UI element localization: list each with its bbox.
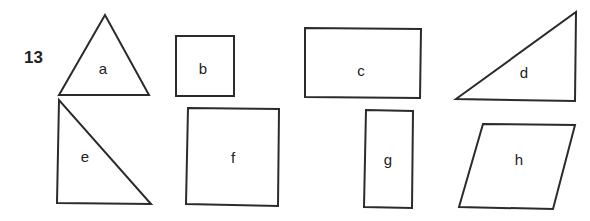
shape-e: e <box>57 100 151 204</box>
shape-label-h: h <box>515 151 523 168</box>
shape-label-e: e <box>81 148 89 165</box>
triangle-d-outline <box>456 12 576 101</box>
shape-label-d: d <box>520 64 528 81</box>
question-number: 13 <box>24 48 43 67</box>
triangle-a-outline <box>59 15 149 95</box>
shape-label-c: c <box>357 62 365 79</box>
shape-d: d <box>456 12 576 101</box>
shapes-diagram: 13 a b c d e f g h <box>0 0 590 221</box>
shape-label-a: a <box>99 60 108 77</box>
shape-c: c <box>305 28 421 98</box>
shape-a: a <box>59 15 149 95</box>
shape-g: g <box>364 110 413 208</box>
shape-b: b <box>176 36 234 96</box>
shape-label-g: g <box>384 151 392 168</box>
triangle-e-outline <box>57 100 151 204</box>
shape-label-b: b <box>199 60 207 77</box>
shape-f: f <box>186 108 279 206</box>
shape-h: h <box>459 124 575 209</box>
shape-label-f: f <box>231 149 236 166</box>
